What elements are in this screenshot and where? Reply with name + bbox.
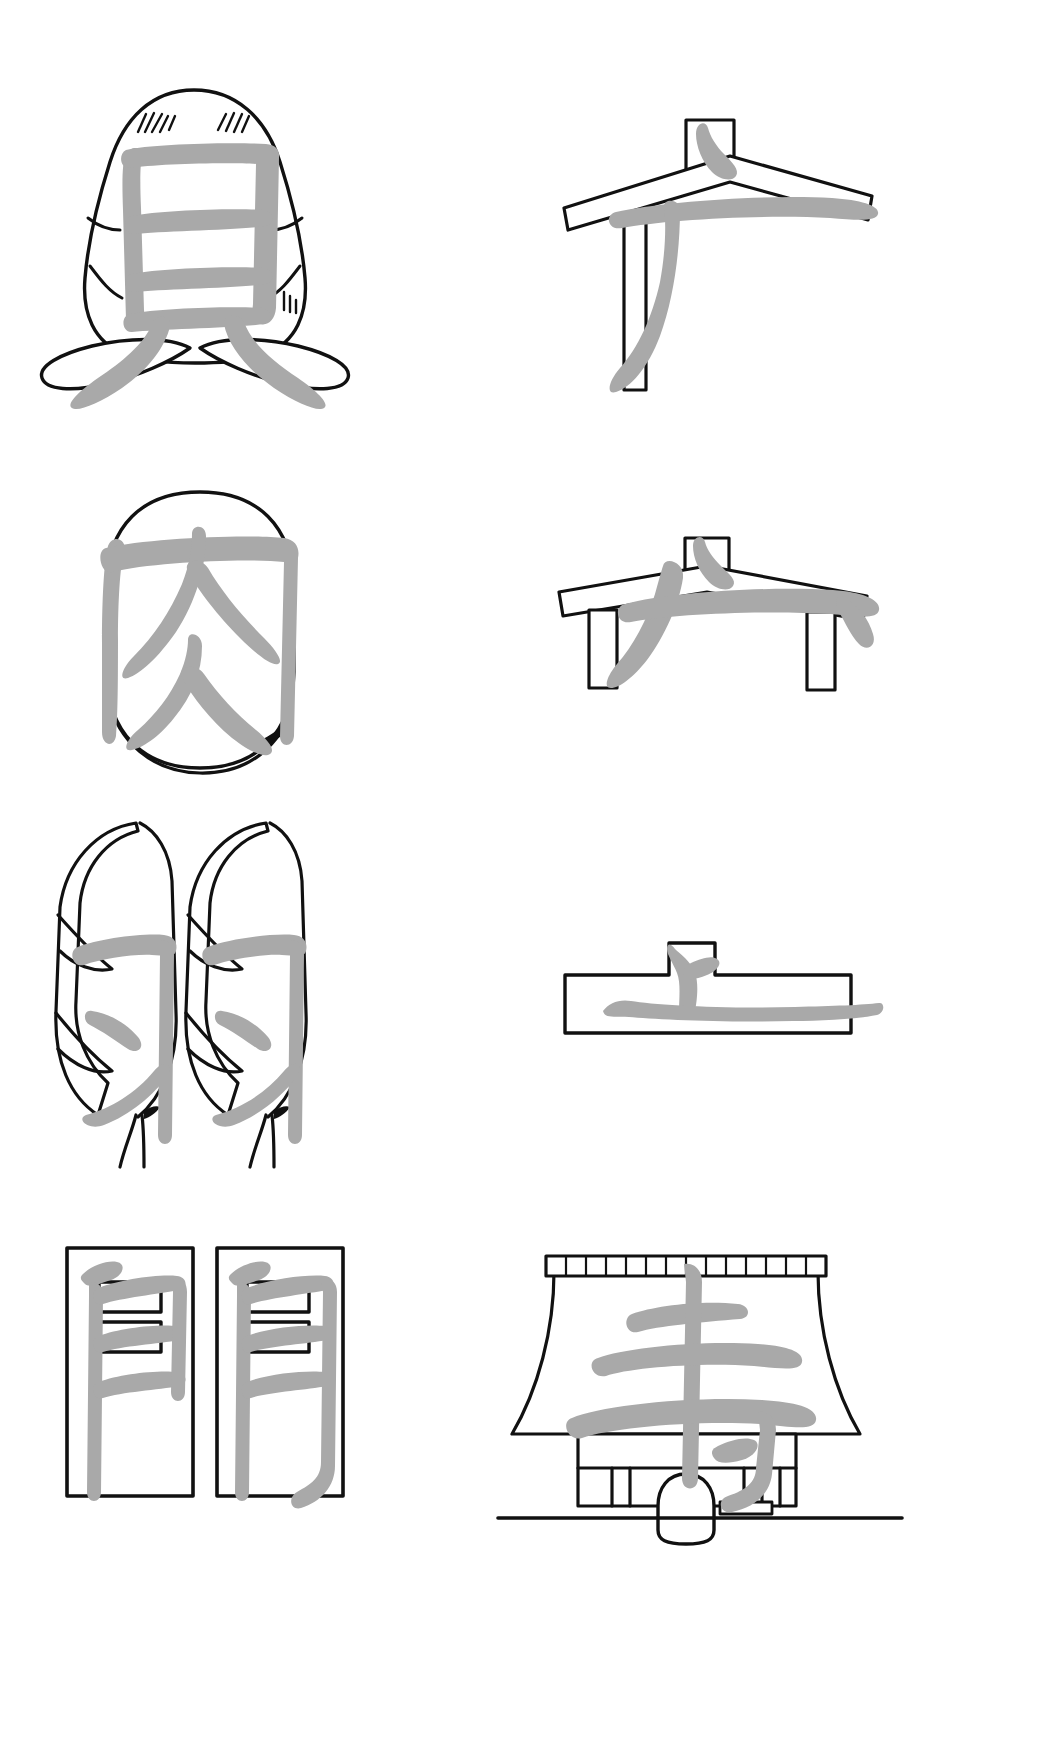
ukanmuri-panel-svg <box>545 520 885 720</box>
panel-gen-leanto <box>550 100 890 400</box>
shell-pictograph <box>42 90 349 389</box>
gen-panel-svg <box>550 100 890 400</box>
worksheet-sheet <box>0 0 1047 1757</box>
panel-ue-above <box>545 925 885 1055</box>
panel-tera-temple <box>490 1230 910 1520</box>
tera-panel-svg <box>490 1230 910 1520</box>
kai-panel-svg <box>30 70 360 400</box>
niku-panel-svg <box>60 480 340 780</box>
panel-ukanmuri-roof <box>545 520 885 720</box>
kanji-ukanmuri-strokes <box>607 537 879 688</box>
mon-panel-svg <box>55 1240 355 1510</box>
panel-mon-gate <box>55 1240 355 1510</box>
ue-panel-svg <box>545 925 885 1055</box>
hane-panel-svg <box>40 815 340 1175</box>
panel-kai-shell <box>30 70 360 400</box>
panel-hane-feathers <box>40 815 340 1175</box>
panel-niku-meat <box>60 480 340 780</box>
